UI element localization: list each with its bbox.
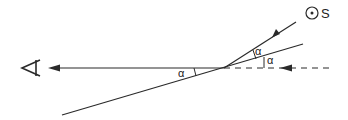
angle-arc-left xyxy=(194,68,196,76)
source-label: S xyxy=(321,6,330,21)
point-source-icon xyxy=(306,7,318,19)
arrowhead-incident-icon xyxy=(272,29,280,38)
arrowhead-left-icon xyxy=(48,65,60,72)
arrowhead-dashed-icon xyxy=(280,65,292,72)
reflection-diagram: α α α S xyxy=(0,0,348,120)
angle-label-right: α xyxy=(267,54,274,66)
eye-icon xyxy=(22,60,40,76)
angle-label-left: α xyxy=(178,67,185,79)
angle-label-upper: α xyxy=(255,45,262,57)
